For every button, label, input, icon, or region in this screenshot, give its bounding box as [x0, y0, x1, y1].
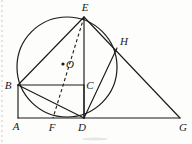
vertex-label-h: H [119, 35, 129, 47]
vertex-label-d: D [77, 121, 86, 133]
center-point-o-dot [61, 62, 64, 65]
geometry-figure-root: A B C D E F G H O [0, 0, 192, 144]
vertex-label-a: A [12, 120, 20, 132]
geometry-diagram: A B C D E F G H O [0, 0, 192, 144]
vertex-label-c: C [86, 79, 94, 91]
print-smudge [82, 138, 108, 141]
vertex-label-e: E [81, 1, 89, 13]
vertex-label-o: O [66, 58, 74, 70]
vertex-label-b: B [5, 79, 12, 91]
vertex-label-g: G [179, 121, 187, 133]
segment-e-g [84, 17, 180, 118]
segment-b-d [18, 85, 84, 118]
vertex-label-f: F [48, 121, 56, 133]
